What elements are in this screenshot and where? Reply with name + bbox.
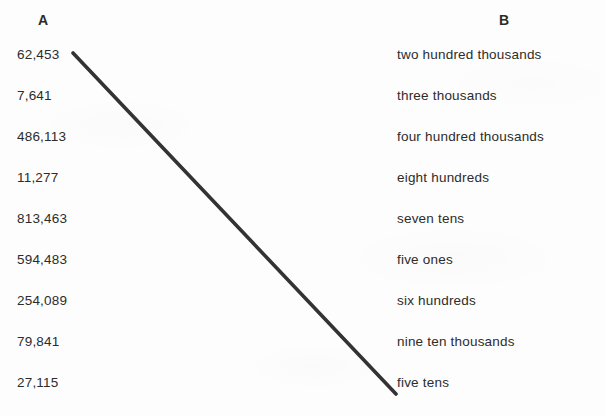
column-b-item[interactable]: eight hundreds — [397, 167, 544, 208]
column-b-item[interactable]: nine ten thousands — [397, 331, 544, 372]
column-a-item[interactable]: 486,113 — [17, 126, 67, 167]
column-b-item[interactable]: three thousands — [397, 85, 544, 126]
column-a-item[interactable]: 254,089 — [17, 290, 67, 331]
column-b-list: two hundred thousands three thousands fo… — [397, 44, 544, 413]
column-a-item[interactable]: 79,841 — [17, 331, 67, 372]
column-b-item[interactable]: seven tens — [397, 208, 544, 249]
column-a-item[interactable]: 813,463 — [17, 208, 67, 249]
column-a-item[interactable]: 7,641 — [17, 85, 67, 126]
column-a-item[interactable]: 11,277 — [17, 167, 67, 208]
column-a-item[interactable]: 62,453 — [17, 44, 67, 85]
column-a-header: A — [38, 12, 48, 28]
column-b-item[interactable]: two hundred thousands — [397, 44, 544, 85]
line-62453-to-five-tens[interactable] — [73, 53, 396, 394]
column-b-item[interactable]: five ones — [397, 249, 544, 290]
column-b-item[interactable]: four hundred thousands — [397, 126, 544, 167]
column-a-item[interactable]: 27,115 — [17, 372, 67, 413]
column-b-item[interactable]: six hundreds — [397, 290, 544, 331]
column-b-header: B — [499, 12, 509, 28]
column-b-item[interactable]: five tens — [397, 372, 544, 413]
column-a-list: 62,453 7,641 486,113 11,277 813,463 594,… — [17, 44, 67, 413]
matching-worksheet: A B 62,453 7,641 486,113 11,277 813,463 … — [0, 0, 605, 416]
column-a-item[interactable]: 594,483 — [17, 249, 67, 290]
